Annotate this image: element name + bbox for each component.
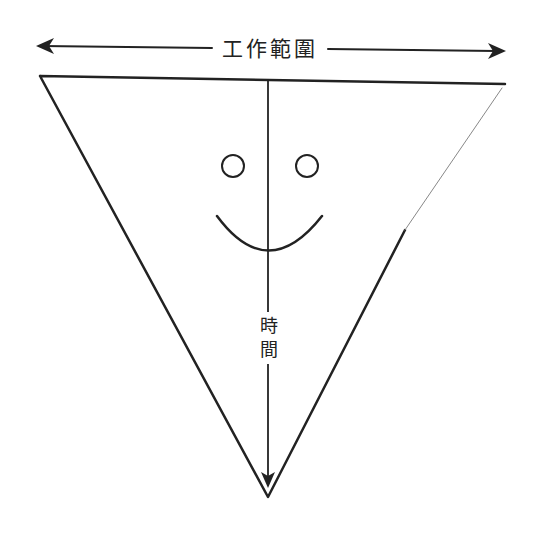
triangle-right-edge-faint [405, 88, 502, 230]
left-eye-icon [222, 155, 244, 177]
time-label-char-2: 間 [255, 338, 283, 362]
scope-label: 工作範圍 [218, 36, 322, 62]
triangle-outline [40, 76, 505, 497]
smile-mouth-icon [217, 216, 322, 251]
scope-arrow-line-right [328, 49, 496, 51]
time-label-char-1: 時 [255, 314, 283, 338]
right-eye-icon [296, 155, 318, 177]
scope-arrow-line-left [42, 46, 212, 48]
time-label: 時 間 [255, 312, 283, 364]
diagram-canvas [0, 0, 538, 537]
